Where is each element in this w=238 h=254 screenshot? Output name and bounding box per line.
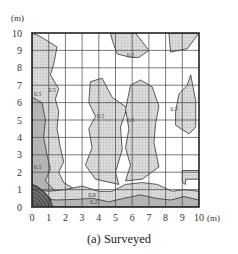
x-tick-label: 7 (146, 212, 151, 223)
x-tick-label: 2 (63, 212, 68, 223)
x-tick-label: 4 (96, 212, 101, 223)
contour-value-label: 0.5 (34, 164, 42, 170)
contour-value-label: 0.5 (48, 87, 56, 93)
y-tick-label: 3 (17, 149, 22, 160)
y-axis-unit: (m) (11, 13, 24, 23)
x-tick-label: 10 (194, 212, 204, 223)
x-tick-label: 5 (113, 212, 118, 223)
x-tick-label: 1 (46, 212, 51, 223)
contour-region-center-left (85, 78, 127, 184)
y-tick-label: 8 (17, 62, 22, 73)
y-axis-ticks: 012345678910 (12, 28, 22, 213)
contour-value-label: 0.5 (34, 91, 42, 97)
contour-region-right-tall (176, 75, 196, 134)
contour-value-label: 0.5 (127, 117, 135, 123)
contour-region-center-right (126, 80, 159, 181)
y-tick-label: 2 (17, 167, 22, 178)
x-tick-label: 0 (30, 212, 35, 223)
y-tick-label: 1 (17, 184, 22, 195)
y-tick-label: 0 (17, 202, 22, 213)
contour-value-label: 0.5 (127, 52, 135, 58)
contour-region-right-bump (182, 171, 199, 185)
x-tick-label: 6 (130, 212, 135, 223)
contour-chart: 012345678910 012345678910 0.50.50.50.50.… (0, 0, 238, 254)
y-tick-label: 5 (17, 115, 22, 126)
x-tick-label: 9 (180, 212, 185, 223)
contour-region-top-right (169, 33, 199, 52)
y-tick-label: 9 (17, 45, 22, 56)
contour-value-label: 0.5 (97, 113, 105, 119)
x-axis-unit: (m) (207, 213, 220, 223)
y-tick-label: 4 (17, 132, 22, 143)
x-tick-label: 8 (163, 212, 168, 223)
contour-value-label: 0.6 (88, 192, 96, 198)
y-tick-label: 10 (12, 28, 22, 39)
x-axis-ticks: 012345678910 (30, 212, 205, 223)
y-tick-label: 6 (17, 97, 22, 108)
contour-value-label: 1.0 (32, 202, 40, 208)
x-tick-label: 3 (80, 212, 85, 223)
figure-caption: (a) Surveyed (0, 232, 238, 247)
contour-value-label: 0.5 (170, 106, 178, 112)
contour-value-label: 0.2 (90, 199, 98, 205)
y-tick-label: 7 (17, 80, 22, 91)
